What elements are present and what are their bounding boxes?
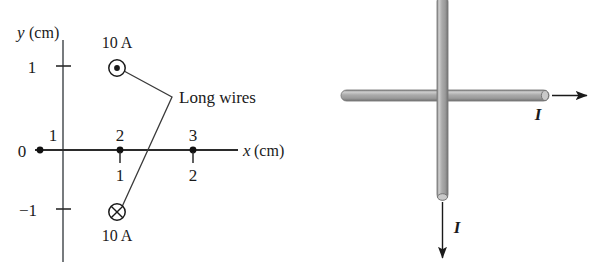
x-upper-tick-label-1: 1 [49, 126, 58, 145]
y-tick-label-minus-1: −1 [19, 201, 37, 220]
x-upper-tick-label-2: 2 [116, 126, 125, 145]
x-upper-tick-label-3: 3 [189, 126, 198, 145]
x-axis-variable-label: x [242, 141, 251, 160]
x-lower-tick-label-1: 1 [116, 166, 125, 185]
current-label-top: 10 A [102, 34, 133, 51]
x-axis-unit-label: (cm) [254, 142, 284, 160]
y-axis-variable-label: y [15, 23, 25, 42]
y-tick-label-1: 1 [28, 58, 37, 77]
horizontal-current-label: I [534, 105, 543, 124]
wire-into-page-symbol [109, 204, 125, 220]
origin-label: 0 [18, 142, 27, 161]
vertical-current-label: I [453, 218, 462, 237]
axis-point-origin [37, 147, 44, 154]
x-lower-tick-label-2: 2 [189, 166, 198, 185]
vertical-wire [437, 0, 448, 200]
long-wires-leader-lines [121, 71, 172, 209]
current-label-bottom: 10 A [102, 227, 133, 244]
right-panel-group: I I [341, 0, 587, 258]
physics-figure: y (cm) x (cm) 1 −1 0 1 2 3 1 2 [0, 0, 598, 271]
long-wires-annotation: Long wires [179, 88, 256, 107]
y-axis-unit-label: (cm) [29, 24, 59, 42]
left-panel-group: y (cm) x (cm) 1 −1 0 1 2 3 1 2 [15, 23, 284, 262]
figure-canvas: y (cm) x (cm) 1 −1 0 1 2 3 1 2 [0, 0, 598, 271]
wire-out-of-page-symbol [109, 60, 125, 76]
